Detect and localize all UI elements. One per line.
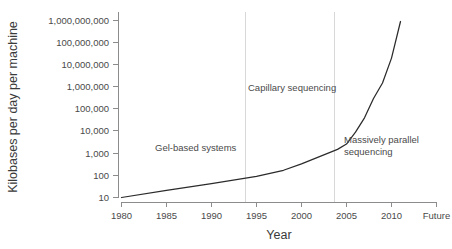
y-tick-label-10000000: 10,000,000: [61, 59, 109, 70]
y-axis: [113, 12, 119, 198]
annotation-massively-parallel-line2: sequencing: [344, 146, 393, 157]
annotation-gel-based-systems: Gel-based systems: [155, 142, 237, 153]
annotation-capillary-sequencing: Capillary sequencing: [248, 82, 336, 93]
y-tick-label-10000: 10,000: [80, 125, 109, 136]
data-series-line: [122, 22, 401, 198]
y-tick-labels: 1,000,000,000 100,000,000 10,000,000 1,0…: [48, 15, 109, 203]
y-tick-label-1000000000: 1,000,000,000: [48, 15, 109, 26]
y-tick-label-100000000: 100,000,000: [56, 37, 109, 48]
x-tick-label-2005: 2005: [336, 210, 357, 221]
y-tick-label-100: 100: [93, 170, 109, 181]
y-axis-title: Kilobases per day per machine: [6, 21, 20, 193]
annotation-massively-parallel-line1: Massively parallel: [344, 134, 419, 145]
x-axis: [121, 203, 437, 208]
sequencing-throughput-line-chart: 1,000,000,000 100,000,000 10,000,000 1,0…: [0, 0, 452, 249]
x-tick-label-1980: 1980: [111, 210, 132, 221]
y-tick-label-10: 10: [98, 192, 109, 203]
y-tick-label-1000000: 1,000,000: [67, 81, 109, 92]
x-tick-label-future: Future: [423, 210, 450, 221]
x-tick-label-2010: 2010: [381, 210, 402, 221]
era-divider-group: [246, 12, 335, 202]
x-tick-label-1990: 1990: [201, 210, 222, 221]
y-tick-label-1000: 1,000: [85, 148, 109, 159]
chart-container: 1,000,000,000 100,000,000 10,000,000 1,0…: [0, 0, 452, 249]
x-tick-labels: 1980 1985 1990 1995 2000 2005 2010 Futur…: [111, 210, 450, 221]
y-tick-label-100000: 100,000: [75, 103, 109, 114]
x-axis-title: Year: [266, 228, 291, 242]
x-tick-label-2000: 2000: [291, 210, 312, 221]
x-tick-label-1995: 1995: [246, 210, 267, 221]
x-tick-label-1985: 1985: [156, 210, 177, 221]
annotation-group: Gel-based systems Capillary sequencing M…: [155, 82, 419, 157]
